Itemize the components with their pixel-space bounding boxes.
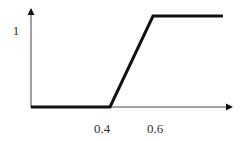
x-axis-arrow-icon [226,104,233,111]
membership-line [31,16,223,107]
chart: 1 0.4 0.6 [0,0,245,141]
x-tick-label-0-6: 0.6 [147,121,164,136]
x-tick-label-0-4: 0.4 [94,121,111,136]
y-tick-label-1: 1 [13,23,20,38]
y-axis-arrow-icon [28,8,35,15]
